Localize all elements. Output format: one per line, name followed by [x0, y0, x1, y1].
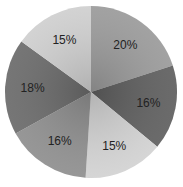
slice-label: 18% [21, 81, 45, 95]
slice-label: 15% [52, 33, 76, 47]
slice-label: 16% [48, 134, 72, 148]
pie-chart: 20%16%15%16%18%15% [0, 0, 183, 187]
slice-label: 20% [113, 38, 137, 52]
slice-label: 16% [136, 96, 160, 110]
slice-label: 15% [102, 139, 126, 153]
